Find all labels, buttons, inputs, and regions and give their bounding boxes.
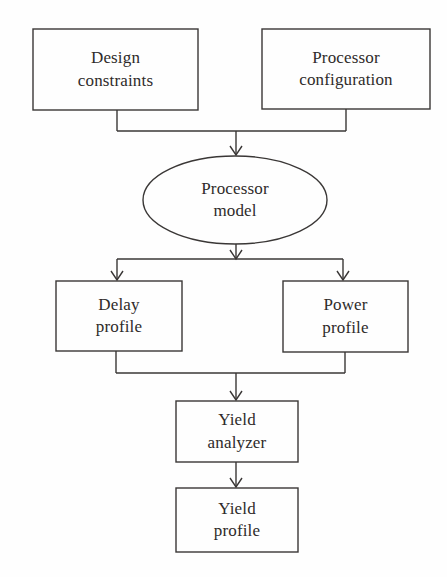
diagram-canvas bbox=[0, 0, 447, 577]
shape-power-profile[interactable] bbox=[283, 281, 408, 352]
shape-yield-analyzer[interactable] bbox=[176, 401, 298, 462]
node-shape-layer bbox=[33, 29, 430, 552]
shape-yield-profile[interactable] bbox=[176, 488, 298, 552]
shape-processor-model[interactable] bbox=[143, 156, 327, 244]
shape-processor-configuration[interactable] bbox=[262, 29, 430, 109]
shape-delay-profile[interactable] bbox=[56, 281, 182, 351]
shape-design-constraints[interactable] bbox=[33, 29, 198, 110]
flowchart-diagram: Design constraints Processor configurati… bbox=[0, 0, 447, 577]
